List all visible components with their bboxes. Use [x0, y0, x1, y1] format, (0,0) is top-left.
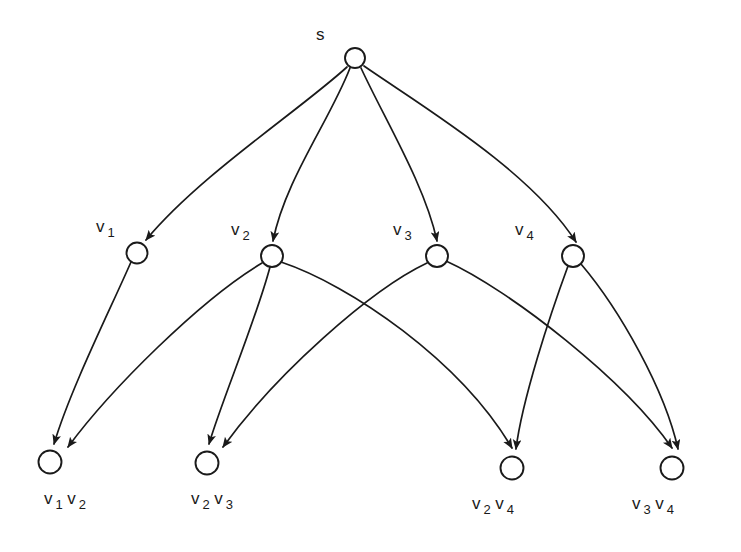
node-v3[interactable] [426, 245, 448, 267]
node-v2v3[interactable] [196, 452, 219, 475]
nodes-layer [39, 48, 684, 480]
edge-s-to-v1 [146, 67, 347, 240]
node-v1v2[interactable] [39, 451, 62, 474]
edge-v4-to-v2v4 [516, 266, 568, 449]
node-label-v2v3: v2v3 [191, 490, 237, 511]
edge-v3-to-v2v3 [223, 263, 427, 447]
node-v2v4[interactable] [501, 457, 524, 480]
edge-s-to-v3 [361, 68, 437, 241]
node-label-v2v4: v2v4 [472, 495, 518, 516]
node-label-v3: v3 [393, 221, 416, 242]
node-s[interactable] [345, 48, 365, 68]
node-label-v4: v4 [515, 221, 538, 242]
diagram-canvas: sv1v2v3v4v1v2v2v3v2v4v3v4 [0, 0, 741, 552]
edge-v2-to-v1v2 [68, 263, 262, 447]
graph-svg [0, 0, 741, 552]
node-label-v3v4: v3v4 [632, 495, 678, 516]
node-label-v1: v1 [96, 218, 119, 239]
node-v2[interactable] [261, 245, 283, 267]
node-v3v4[interactable] [661, 457, 684, 480]
edge-s-to-v2 [273, 68, 350, 241]
node-label-v1v2: v1v2 [44, 490, 90, 511]
edge-v2-to-v2v4 [281, 262, 512, 448]
node-v4[interactable] [562, 245, 584, 267]
node-label-s: s [316, 26, 325, 43]
node-v1[interactable] [127, 243, 148, 264]
edge-v4-to-v3v4 [581, 264, 678, 449]
edge-s-to-v4 [364, 66, 576, 242]
node-label-v2: v2 [231, 221, 254, 242]
